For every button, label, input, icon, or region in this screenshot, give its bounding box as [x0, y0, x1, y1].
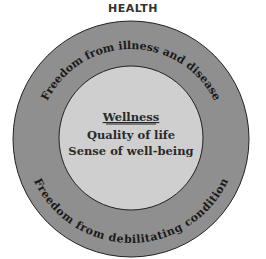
quality-of-life-label: Quality of life	[87, 128, 175, 142]
wellness-heading: Wellness	[102, 110, 160, 124]
well-being-label: Sense of well-being	[68, 144, 193, 158]
health-diagram: Freedom from illness and disease Freedom…	[0, 0, 266, 259]
